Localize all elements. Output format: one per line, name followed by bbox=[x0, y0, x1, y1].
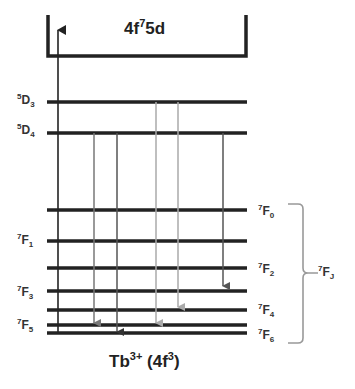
label-7FJ: 7FJ bbox=[318, 264, 334, 281]
label-7F4: 7F4 bbox=[258, 302, 274, 319]
label-7F0: 7F0 bbox=[258, 203, 274, 220]
fj-bracket bbox=[288, 204, 318, 343]
ion-label-tb3plus: Tb3+ (4f3) bbox=[109, 350, 180, 372]
label-5D4: 5D4 bbox=[17, 122, 35, 139]
label-5D3: 5D3 bbox=[17, 92, 35, 109]
label-7F2: 7F2 bbox=[258, 261, 274, 278]
energy-level-diagram bbox=[0, 0, 355, 389]
label-7F5: 7F5 bbox=[17, 317, 33, 334]
label-7F1: 7F1 bbox=[17, 232, 33, 249]
label-7F6: 7F6 bbox=[258, 327, 274, 344]
label-7F3: 7F3 bbox=[17, 284, 33, 301]
band-label-4f75d: 4f75d bbox=[124, 17, 165, 39]
energy-levels bbox=[47, 102, 247, 333]
